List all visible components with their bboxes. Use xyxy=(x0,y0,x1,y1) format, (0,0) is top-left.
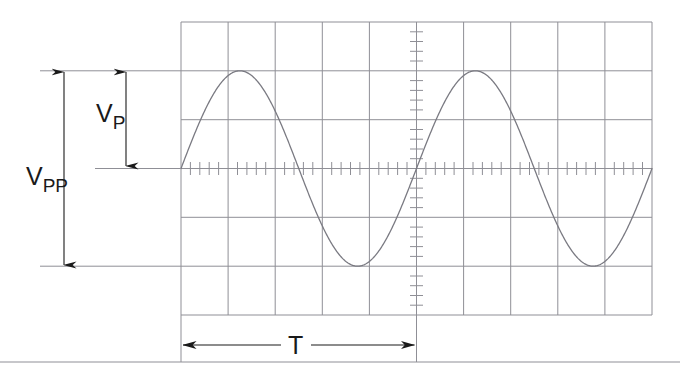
period-label: T xyxy=(288,331,303,359)
figure-background xyxy=(0,0,680,383)
waveform-figure: VPP VP T xyxy=(0,0,680,383)
